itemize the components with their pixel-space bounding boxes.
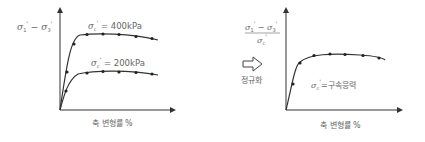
right-ylabel-numerator: σ1' − σ3'	[245, 20, 277, 33]
left-ylabel: σ1' − σ3'	[17, 20, 52, 33]
label-400kpa: σc' = 400kPa	[88, 19, 142, 32]
right-ylabel-denominator: σc'	[257, 33, 267, 46]
left-xlabel: 축 변형률 %	[92, 117, 133, 128]
confining-stress-annotation: σc'=구속응력	[311, 78, 356, 91]
label-200kpa: σc' = 200kPa	[91, 56, 145, 69]
normalize-label: 정규화	[241, 74, 262, 85]
normalize-arrow-icon	[243, 57, 262, 71]
right-xlabel: 축 변형률 %	[320, 119, 361, 130]
curve-200kpa	[60, 70, 158, 110]
diagram-canvas	[0, 0, 425, 142]
